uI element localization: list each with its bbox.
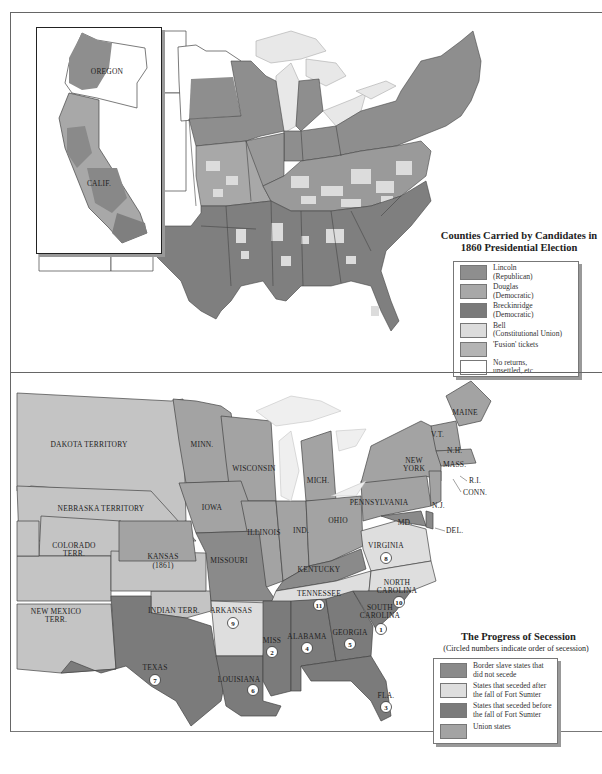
mississippi <box>263 601 291 696</box>
bottom-legend-item: States that seceded afterthe fall of For… <box>440 682 552 699</box>
top-legend-item: 'Fusion' tickets <box>460 341 573 357</box>
indian-territory-label: INDIAN TERR. <box>148 606 200 615</box>
virginia-label: VIRGINIA <box>368 541 404 550</box>
top-legend-label: Breckinridge(Democratic) <box>493 302 533 319</box>
secession-order-mississippi: 2 <box>270 649 274 657</box>
top-legend-label: 'Fusion' tickets <box>493 341 538 350</box>
california-label: CALIF. <box>87 179 111 188</box>
bottom-legend-label: Border slave states thatdid not secede <box>473 662 544 679</box>
top-legend-swatch <box>460 284 487 299</box>
kansas-label-1: KANSAS <box>147 552 178 561</box>
top-legend-label: Lincoln(Republican) <box>493 264 533 281</box>
bottom-legend-item: Border slave states thatdid not secede <box>440 662 552 679</box>
ohio-label: OHIO <box>328 516 348 525</box>
bottom-legend-swatch <box>440 724 467 739</box>
bottom-legend-swatch <box>440 703 467 718</box>
vermont-label: V.T. <box>431 430 444 439</box>
secession-legend-subtitle: (Circled numbers indicate order of seces… <box>419 644 602 653</box>
alabama-label: ALABAMA <box>287 632 327 641</box>
secession-order-georgia: 5 <box>348 641 352 649</box>
kentucky-label: KENTUCKY <box>298 565 341 574</box>
south-carolina-label-2: CAROLINA <box>360 611 401 620</box>
top-legend-swatch <box>460 342 487 357</box>
tennessee-label: TENNESSEE <box>297 589 341 598</box>
top-legend-swatch <box>460 265 487 280</box>
secession-order-virginia: 8 <box>384 555 388 563</box>
bottom-legend-label: States that seceded afterthe fall of For… <box>473 682 546 699</box>
minnesota-label: MINN. <box>191 440 214 449</box>
maine-label: MAINE <box>452 408 478 417</box>
top-legend-swatch <box>460 303 487 318</box>
election-title-line2: 1860 Presidential Election <box>429 242 602 254</box>
bottom-legend-swatch <box>440 663 467 678</box>
secession-map-panel: DAKOTA TERRITORY NEBRASKA TERRITORY COLO… <box>10 372 602 732</box>
new-mexico-label-2: TERR. <box>45 615 67 624</box>
top-legend-item: Lincoln(Republican) <box>460 264 573 281</box>
new-jersey-label: N.J. <box>432 501 445 510</box>
bottom-legend-swatch <box>440 683 467 698</box>
wisconsin-label: WISCONSIN <box>232 464 276 473</box>
secession-order-florida: 3 <box>384 704 388 712</box>
election-legend: Lincoln(Republican)Douglas(Democratic)Br… <box>453 261 579 377</box>
new-mexico-territory <box>17 556 111 601</box>
missouri-label: MISSOURI <box>210 556 248 565</box>
bottom-legend-item: Union states <box>440 723 552 739</box>
colorado-label-2: TERR. <box>63 549 85 558</box>
michigan <box>301 431 336 501</box>
dakota-label: DAKOTA TERRITORY <box>50 440 128 449</box>
rhode-island-label: R.I. <box>469 476 481 485</box>
texas-label: TEXAS <box>142 663 167 672</box>
election-legend-title: Counties Carried by Candidates in 1860 P… <box>429 230 602 254</box>
secession-order-alabama: 4 <box>305 645 309 653</box>
bottom-legend-label: Union states <box>473 723 511 732</box>
top-legend-item: Douglas(Democratic) <box>460 283 573 300</box>
delaware-label: DEL. <box>446 526 463 535</box>
delaware <box>426 511 433 529</box>
secession-legend-title: The Progress of Secession <box>431 631 602 643</box>
election-1860-map-panel: OREGON CALIF. Counties Carried by Candid… <box>10 12 602 373</box>
massachusetts-label: MASS. <box>443 460 466 469</box>
oregon-california-inset-map: OREGON CALIF. <box>37 28 161 253</box>
indiana-label: IND. <box>293 526 309 535</box>
top-legend-item: Breckinridge(Democratic) <box>460 302 573 319</box>
pacific-coast-inset: OREGON CALIF. <box>36 27 162 254</box>
bottom-legend-item: States that seceded beforethe fall of Fo… <box>440 702 552 719</box>
secession-legend: Border slave states thatdid not secedeSt… <box>433 658 558 744</box>
mississippi-label: MISS <box>263 636 281 645</box>
secession-order-texas: 7 <box>153 677 157 685</box>
michigan-label: MICH. <box>307 476 329 485</box>
secession-order-arkansas: 9 <box>231 620 235 628</box>
illinois-label: ILLINOIS <box>247 528 280 537</box>
top-legend-label: Bell(Constitutional Union) <box>493 322 562 339</box>
secession-order-north-carolina: 10 <box>395 599 403 607</box>
new-york-label-2: YORK <box>403 464 425 473</box>
arkansas-label: ARKANSAS <box>210 606 252 615</box>
secession-order-tennessee: 11 <box>315 602 322 610</box>
election-title-line1: Counties Carried by Candidates in <box>429 230 602 242</box>
north-carolina-label-2: CAROLINA <box>377 586 418 595</box>
maine <box>446 381 491 426</box>
top-legend-item: Bell(Constitutional Union) <box>460 322 573 339</box>
secession-order-louisiana: 6 <box>251 687 255 695</box>
secession-order-south-carolina: 1 <box>379 626 383 634</box>
florida <box>301 656 391 721</box>
iowa-label: IOWA <box>202 503 223 512</box>
pennsylvania-label: PENNSYLVANIA <box>350 498 409 507</box>
new-hampshire-label: N.H. <box>447 446 462 455</box>
top-legend-swatch <box>460 323 487 338</box>
connecticut-label: CONN. <box>463 488 487 497</box>
bottom-legend-label: States that seceded beforethe fall of Fo… <box>473 702 552 719</box>
florida-label: FLA. <box>378 691 395 700</box>
oregon-label: OREGON <box>91 67 124 76</box>
kansas-label-2: (1861) <box>152 561 173 570</box>
georgia-label: GEORGIA <box>332 628 368 637</box>
nebraska-label: NEBRASKA TERRITORY <box>58 504 145 513</box>
maryland-label: MD. <box>398 518 413 527</box>
top-legend-label: Douglas(Democratic) <box>493 283 533 300</box>
louisiana-label: LOUISIANA <box>218 675 261 684</box>
